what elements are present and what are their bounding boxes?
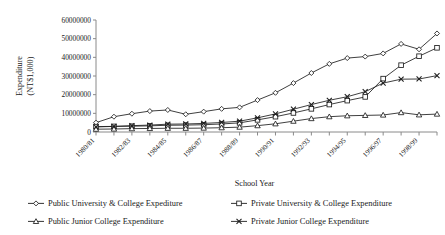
data-point [398,110,403,115]
legend-label: Private University & College Expenditure [251,199,392,208]
y-axis-tick-label: 30000000 [61,72,91,81]
expenditure-line-chart: 0100000002000000030000000400000005000000… [0,0,445,235]
data-point [273,90,278,95]
x-axis-tick-label: 1982/83 [110,136,133,159]
data-point [129,111,134,116]
data-point [435,46,440,51]
legend-item-1[interactable]: Public University & College Expediture [28,199,183,208]
x-axis-tick-label: 1994/95 [325,136,348,159]
x-axis-tick-label: 1986/87 [182,136,205,159]
x-axis-tick-label: 1988/89 [218,136,241,159]
data-point [363,54,368,59]
legend-item-2[interactable]: Private University & College Expenditure [231,199,392,208]
x-axis-tick-label: 1996/97 [361,136,384,159]
data-point [363,95,368,100]
data-point [399,41,404,46]
data-point [255,98,260,103]
data-point [399,63,404,68]
data-point [165,107,170,112]
x-axis-tick-label: 1998/99 [397,136,420,159]
data-point [327,102,332,107]
series-1 [94,31,440,125]
y-axis-tick-label: 20000000 [61,90,91,99]
y-axis-tick-label: 60000000 [61,16,91,25]
data-point [327,61,332,66]
legend-item-3[interactable]: Public Junior College Expenditure [28,217,164,226]
legend-label: Public Junior College Expenditure [48,217,164,226]
series-line [96,76,437,127]
x-axis-tick-label: 1992/93 [289,136,312,159]
data-point [237,105,242,110]
legend-marker-square-icon [237,201,242,206]
data-point [345,56,350,61]
data-point [147,109,152,114]
y-axis-tick-label: 40000000 [61,53,91,62]
data-point [111,114,116,119]
legend-marker-diamond-icon [34,201,39,206]
y-axis-tick-label: 50000000 [61,34,91,43]
x-axis-tick-label: 1980/81 [74,136,97,159]
y-axis-tick-label: 0 [87,128,91,137]
legend-label: Private Junior College Expenditure [251,217,369,226]
y-axis-tick-label: 10000000 [61,109,91,118]
data-point [417,54,422,59]
data-point [309,71,314,76]
legend-label: Public University & College Expediture [48,199,183,208]
series-2 [94,46,440,129]
data-point [309,107,314,112]
data-point [291,81,296,86]
data-point [201,109,206,114]
x-axis-title: School Year [235,179,275,188]
series-4 [94,73,440,129]
data-point [381,51,386,56]
data-point [183,112,188,117]
y-axis-title-line2: (NT$1,000) [26,56,35,95]
x-axis-tick-label: 1990/91 [254,136,277,159]
data-point [381,76,386,81]
y-axis-title-line1: Expenditure [15,56,24,96]
chart-canvas: 0100000002000000030000000400000005000000… [0,0,445,235]
series-3 [93,110,439,131]
legend-item-4[interactable]: Private Junior College Expenditure [231,217,369,226]
x-axis-tick-label: 1984/85 [146,136,169,159]
data-point [219,106,224,111]
